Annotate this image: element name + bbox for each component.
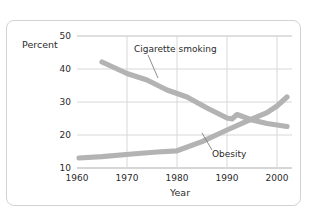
y-tick-30: 30	[60, 97, 72, 107]
y-tick-10: 10	[60, 163, 72, 173]
x-tick-1990: 1990	[216, 173, 239, 183]
y-tick-50: 50	[60, 31, 72, 41]
y-axis-tick-labels: 50 40 30 20 10	[60, 31, 72, 173]
x-axis-title: Year	[169, 187, 190, 198]
line-chart: 50 40 30 20 10 1960 1970 1980 1990 2000 …	[0, 0, 313, 221]
y-tick-20: 20	[60, 130, 72, 140]
x-axis-tick-labels: 1960 1970 1980 1990 2000	[66, 173, 289, 183]
y-tick-40: 40	[60, 64, 72, 74]
y-axis-title: Percent	[22, 39, 58, 50]
figure-root: 50 40 30 20 10 1960 1970 1980 1990 2000 …	[0, 0, 313, 221]
annotation-cigarette-smoking: Cigarette smoking	[134, 44, 217, 78]
series-line-obesity	[79, 97, 287, 158]
x-tick-1980: 1980	[166, 173, 189, 183]
x-tick-2000: 2000	[266, 173, 289, 183]
x-tick-1970: 1970	[116, 173, 139, 183]
x-tick-1960: 1960	[66, 173, 89, 183]
series-label-cigarette-smoking: Cigarette smoking	[134, 44, 217, 54]
series-label-obesity: Obesity	[212, 149, 247, 159]
leader-line-cigarette-smoking	[148, 55, 158, 78]
